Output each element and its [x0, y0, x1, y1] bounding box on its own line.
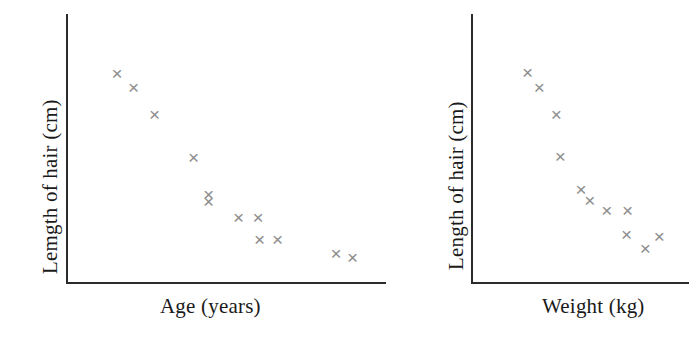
x-axis-label: Age (years): [160, 294, 261, 319]
data-point-marker: ×: [551, 148, 569, 166]
data-point-marker: ×: [108, 65, 126, 83]
x-axis-line: [471, 282, 689, 284]
data-point-marker: ×: [530, 79, 548, 97]
data-point-marker: ×: [618, 226, 636, 244]
data-point-marker: ×: [200, 193, 218, 211]
y-axis-label: Length of hair (cm): [444, 101, 469, 270]
data-point-marker: ×: [251, 231, 269, 249]
scatter-chart-age: ×××××××××××× Lemgth of hair (cm) Age (ye…: [0, 0, 400, 340]
data-point-marker: ×: [125, 79, 143, 97]
scatter-chart-weight: ××××××××××× Length of hair (cm) Weight (…: [400, 0, 689, 340]
x-axis-label: Weight (kg): [542, 294, 645, 319]
data-point-marker: ×: [249, 209, 267, 227]
data-point-marker: ×: [269, 231, 287, 249]
data-point-marker: ×: [327, 245, 345, 263]
data-point-marker: ×: [581, 192, 599, 210]
data-point-marker: ×: [547, 106, 565, 124]
data-point-marker: ×: [598, 202, 616, 220]
figure-container: ×××××××××××× Lemgth of hair (cm) Age (ye…: [0, 0, 689, 340]
y-axis-label: Lemgth of hair (cm): [38, 99, 63, 274]
data-point-marker: ×: [146, 106, 164, 124]
data-point-marker: ×: [344, 249, 362, 267]
data-point-marker: ×: [185, 149, 203, 167]
data-point-marker: ×: [230, 209, 248, 227]
data-point-marker: ×: [636, 240, 654, 258]
data-point-marker: ×: [619, 202, 637, 220]
x-axis-line: [66, 282, 386, 284]
y-axis-line: [66, 14, 68, 284]
y-axis-line: [471, 14, 473, 284]
